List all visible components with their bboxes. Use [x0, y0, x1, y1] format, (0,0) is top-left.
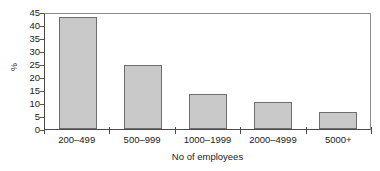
y-tick-label: 20	[18, 73, 40, 83]
x-tick-mark	[240, 127, 241, 134]
y-tick-mark	[40, 117, 44, 118]
y-tick-label: 25	[18, 60, 40, 70]
x-category-label: 2000–4999	[240, 134, 305, 146]
x-tick-mark	[371, 127, 372, 134]
y-tick-label: 15	[18, 86, 40, 96]
bars-container	[45, 14, 370, 129]
x-tick-mark	[44, 127, 45, 134]
x-tick-mark	[109, 127, 110, 134]
y-tick-mark	[40, 91, 44, 92]
y-tick-mark	[40, 65, 44, 66]
x-tick-mark	[175, 127, 176, 134]
bar	[189, 94, 227, 129]
y-tick-label: 5	[18, 112, 40, 122]
bar	[59, 17, 97, 129]
bar-cell	[45, 14, 110, 129]
x-category-label: 200–499	[44, 134, 109, 146]
y-tick-label: 30	[18, 47, 40, 57]
bar-cell	[240, 14, 305, 129]
y-tick-mark	[40, 78, 44, 79]
y-tick-mark	[40, 52, 44, 53]
y-tick-mark	[40, 26, 44, 27]
y-tick-label: 0	[18, 125, 40, 135]
bar	[319, 112, 357, 129]
plot-area	[44, 13, 371, 130]
bar-cell	[175, 14, 240, 129]
y-tick-mark	[40, 39, 44, 40]
bar-cell	[305, 14, 370, 129]
y-tick-label: 45	[18, 8, 40, 18]
y-tick-mark	[40, 130, 44, 131]
x-category-label: 1000–1999	[175, 134, 240, 146]
y-tick-label: 35	[18, 34, 40, 44]
bar	[254, 102, 292, 129]
y-tick-label: 40	[18, 21, 40, 31]
y-tick-mark	[40, 104, 44, 105]
bar	[124, 65, 162, 129]
bar-chart: % 051015202530354045 200–499500–9991000–…	[0, 0, 380, 171]
bar-cell	[110, 14, 175, 129]
y-tick-label: 10	[18, 99, 40, 109]
x-axis-title: No of employees	[44, 151, 371, 163]
x-axis-labels: 200–499500–9991000–19992000–49995000+	[44, 134, 371, 146]
y-axis-ticks: 051015202530354045	[18, 0, 40, 171]
x-tick-mark	[306, 127, 307, 134]
x-category-label: 500–999	[109, 134, 174, 146]
x-category-label: 5000+	[306, 134, 371, 146]
y-tick-mark	[40, 13, 44, 14]
